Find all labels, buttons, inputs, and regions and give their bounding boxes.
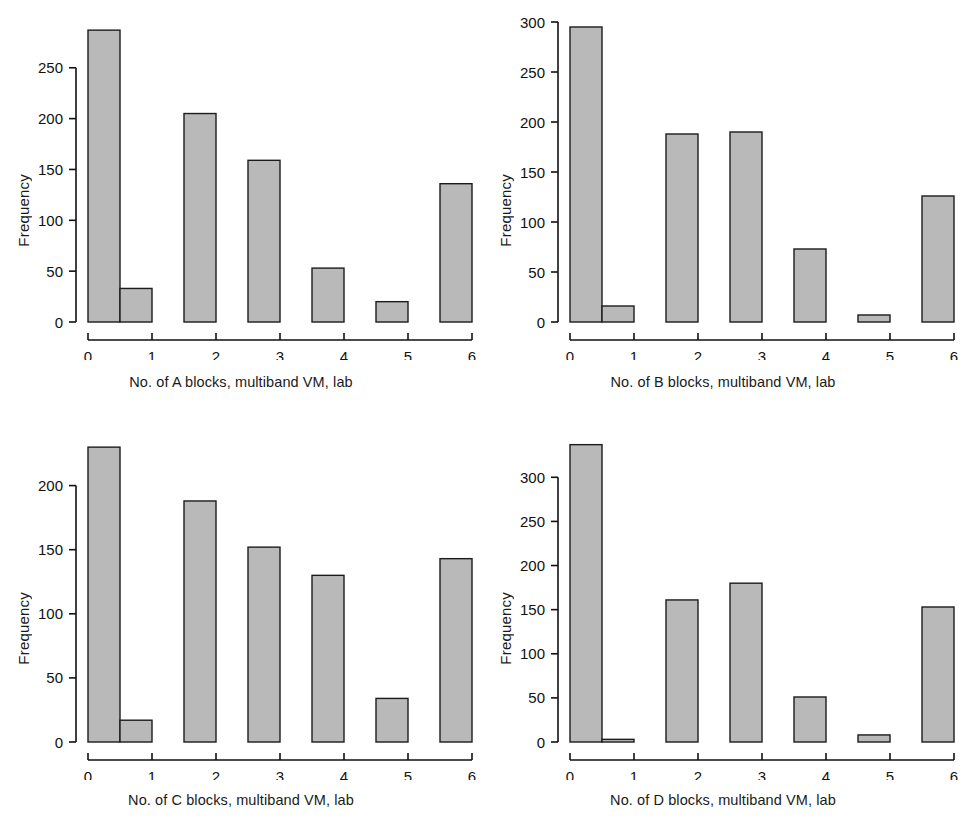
histogram-bar bbox=[922, 196, 954, 322]
histogram-bar bbox=[120, 720, 152, 742]
histogram-bar bbox=[602, 739, 634, 742]
y-axis-tick-label: 250 bbox=[520, 513, 545, 530]
y-axis-tick-label: 150 bbox=[520, 164, 545, 181]
histogram-bar bbox=[922, 607, 954, 742]
x-axis-tick-label: 4 bbox=[822, 348, 830, 360]
y-axis-tick-label: 50 bbox=[46, 263, 63, 280]
x-axis-tick-label: 6 bbox=[468, 348, 476, 360]
histogram-bar bbox=[376, 302, 408, 322]
histogram-plot-a: 0501001502002500123456 bbox=[0, 0, 482, 360]
x-axis-tick-label: 3 bbox=[758, 348, 766, 360]
y-axis-tick-label: 100 bbox=[38, 605, 63, 622]
histogram-bar bbox=[248, 547, 280, 742]
histogram-bar bbox=[440, 559, 472, 742]
y-axis-tick-label: 250 bbox=[520, 64, 545, 81]
y-axis-tick-label: 0 bbox=[55, 734, 63, 751]
histogram-bar bbox=[794, 249, 826, 322]
x-axis-tick-label: 5 bbox=[886, 768, 894, 780]
x-axis-tick-label: 0 bbox=[84, 348, 92, 360]
histogram-plot-b: 0501001502002503000123456 bbox=[482, 0, 964, 360]
x-axis-tick-label: 5 bbox=[404, 768, 412, 780]
histogram-plot-c: 0501001502000123456 bbox=[0, 420, 482, 780]
histogram-bar bbox=[570, 27, 602, 322]
y-axis-label-d: Frequency bbox=[492, 420, 518, 837]
histogram-plot-d: 0501001502002503000123456 bbox=[482, 420, 964, 780]
histogram-bar bbox=[184, 114, 216, 322]
x-axis-tick-label: 4 bbox=[822, 768, 830, 780]
y-axis-tick-label: 100 bbox=[520, 214, 545, 231]
y-axis-tick-label: 50 bbox=[528, 689, 545, 706]
histogram-bar bbox=[730, 132, 762, 322]
x-axis-tick-label: 6 bbox=[950, 768, 958, 780]
y-axis-tick-label: 200 bbox=[520, 557, 545, 574]
x-axis-tick-label: 3 bbox=[758, 768, 766, 780]
x-axis-label-a: No. of A blocks, multiband VM, lab bbox=[0, 374, 482, 390]
x-axis-tick-label: 2 bbox=[212, 768, 220, 780]
y-axis-tick-label: 50 bbox=[46, 669, 63, 686]
x-axis-tick-label: 2 bbox=[212, 348, 220, 360]
histogram-bar bbox=[730, 583, 762, 742]
histogram-bar bbox=[88, 30, 120, 322]
x-axis-tick-label: 5 bbox=[886, 348, 894, 360]
y-axis-tick-label: 300 bbox=[520, 469, 545, 486]
y-axis-tick-label: 150 bbox=[520, 601, 545, 618]
x-axis-tick-label: 1 bbox=[148, 348, 156, 360]
x-axis-tick-label: 6 bbox=[950, 348, 958, 360]
x-axis-label-c: No. of C blocks, multiband VM, lab bbox=[0, 792, 482, 808]
y-axis-tick-label: 0 bbox=[537, 314, 545, 331]
x-axis-tick-label: 0 bbox=[566, 768, 574, 780]
histogram-bar bbox=[858, 315, 890, 322]
x-axis-tick-label: 5 bbox=[404, 348, 412, 360]
figure-panel-grid: Frequency 0501001502002500123456 No. of … bbox=[0, 0, 964, 837]
x-axis-tick-label: 3 bbox=[276, 768, 284, 780]
x-axis-tick-label: 0 bbox=[84, 768, 92, 780]
y-axis-tick-label: 50 bbox=[528, 264, 545, 281]
y-axis-tick-label: 100 bbox=[38, 212, 63, 229]
y-axis-tick-label: 300 bbox=[520, 14, 545, 31]
histogram-bar bbox=[794, 697, 826, 742]
histogram-bar bbox=[312, 575, 344, 742]
x-axis-tick-label: 4 bbox=[340, 768, 348, 780]
histogram-bar bbox=[440, 184, 472, 322]
histogram-bar bbox=[248, 160, 280, 322]
histogram-bar bbox=[184, 501, 216, 742]
x-axis-tick-label: 1 bbox=[630, 348, 638, 360]
histogram-bar bbox=[88, 447, 120, 742]
y-axis-tick-label: 150 bbox=[38, 541, 63, 558]
chart-panel-b: Frequency 0501001502002503000123456 No. … bbox=[482, 0, 964, 420]
x-axis-label-d: No. of D blocks, multiband VM, lab bbox=[482, 792, 964, 808]
chart-panel-c: Frequency 0501001502000123456 No. of C b… bbox=[0, 420, 482, 837]
x-axis-tick-label: 6 bbox=[468, 768, 476, 780]
histogram-bar bbox=[120, 288, 152, 322]
histogram-bar bbox=[312, 268, 344, 322]
y-axis-tick-label: 200 bbox=[38, 110, 63, 127]
y-axis-label-a: Frequency bbox=[10, 0, 36, 420]
x-axis-tick-label: 2 bbox=[694, 348, 702, 360]
y-axis-tick-label: 200 bbox=[38, 477, 63, 494]
x-axis-tick-label: 1 bbox=[630, 768, 638, 780]
x-axis-tick-label: 0 bbox=[566, 348, 574, 360]
y-axis-tick-label: 250 bbox=[38, 59, 63, 76]
x-axis-label-b: No. of B blocks, multiband VM, lab bbox=[482, 374, 964, 390]
y-axis-tick-label: 150 bbox=[38, 161, 63, 178]
y-axis-tick-label: 100 bbox=[520, 645, 545, 662]
x-axis-tick-label: 1 bbox=[148, 768, 156, 780]
histogram-bar bbox=[858, 735, 890, 742]
x-axis-tick-label: 4 bbox=[340, 348, 348, 360]
y-axis-tick-label: 0 bbox=[55, 314, 63, 331]
histogram-bar bbox=[376, 698, 408, 742]
histogram-bar bbox=[666, 600, 698, 742]
x-axis-tick-label: 3 bbox=[276, 348, 284, 360]
y-axis-tick-label: 200 bbox=[520, 114, 545, 131]
histogram-bar bbox=[602, 306, 634, 322]
chart-panel-d: Frequency 0501001502002503000123456 No. … bbox=[482, 420, 964, 837]
y-axis-label-c: Frequency bbox=[10, 420, 36, 837]
y-axis-tick-label: 0 bbox=[537, 734, 545, 751]
chart-panel-a: Frequency 0501001502002500123456 No. of … bbox=[0, 0, 482, 420]
histogram-bar bbox=[666, 134, 698, 322]
y-axis-label-b: Frequency bbox=[492, 0, 518, 420]
x-axis-tick-label: 2 bbox=[694, 768, 702, 780]
histogram-bar bbox=[570, 445, 602, 742]
